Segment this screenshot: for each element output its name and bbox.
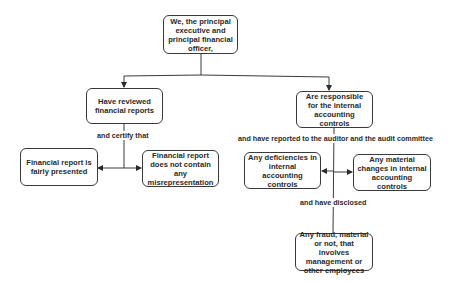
node-material-changes-text: Any material changes in internal account… — [357, 155, 427, 191]
node-material-changes: Any material changes in internal account… — [353, 154, 431, 191]
node-fairly-presented: Financial report is fairly presented — [20, 148, 98, 186]
node-fraud: Any fraud, material or not, that involve… — [295, 233, 373, 271]
node-are-responsible-text: Are responsible for the internal account… — [300, 92, 369, 128]
node-are-responsible: Are responsible for the internal account… — [296, 91, 373, 128]
responsible-stem-line — [333, 128, 334, 233]
node-have-reviewed-text: Have reviewed financial reports — [90, 97, 159, 115]
edge-label-certify: and certify that — [97, 131, 149, 140]
node-no-misrepresentation-text: Financial report does not contain any mi… — [146, 151, 215, 187]
node-root-text: We, the principal executive and principa… — [167, 17, 234, 53]
node-deficiencies: Any deficiencies in internal accounting … — [244, 152, 321, 189]
root-branch-line — [124, 75, 329, 77]
edge-label-disclosed: and have disclosed — [300, 198, 366, 207]
edge-label-reported: and have reported to the auditor and the… — [238, 134, 433, 143]
node-no-misrepresentation: Financial report does not contain any mi… — [142, 150, 219, 187]
node-root: We, the principal executive and principa… — [163, 15, 238, 54]
node-have-reviewed: Have reviewed financial reports — [86, 88, 163, 124]
node-fairly-presented-text: Financial report is fairly presented — [24, 158, 94, 176]
flowchart-canvas: We, the principal executive and principa… — [0, 0, 451, 284]
node-fraud-text: Any fraud, material or not, that involve… — [299, 230, 369, 275]
node-deficiencies-text: Any deficiencies in internal accounting … — [248, 153, 317, 189]
